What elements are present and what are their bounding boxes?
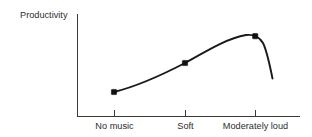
x-tick-label-no-music: No music	[95, 121, 134, 131]
chart-figure: Productivity No music Soft Moderately lo…	[0, 0, 312, 137]
productivity-vs-music-line-chart: Productivity No music Soft Moderately lo…	[0, 0, 312, 137]
x-tick-label-soft: Soft	[177, 121, 194, 131]
y-axis-label: Productivity	[20, 10, 68, 20]
productivity-curve	[114, 35, 273, 92]
data-point-no-music	[111, 89, 116, 94]
x-tick-label-moderately-loud: Moderately loud	[223, 121, 288, 131]
data-point-moderately-loud	[253, 34, 258, 39]
data-point-soft	[182, 60, 187, 65]
